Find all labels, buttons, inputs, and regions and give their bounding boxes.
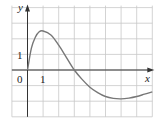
y-axis-arrow-icon	[25, 5, 30, 12]
y-axis-label: y	[18, 2, 23, 13]
origin-label: 0	[17, 74, 23, 85]
x-axis-label: x	[145, 73, 150, 84]
y-tick-label-1: 1	[17, 50, 23, 61]
x-tick-label-1: 1	[40, 74, 46, 85]
chart-canvas	[0, 0, 158, 126]
